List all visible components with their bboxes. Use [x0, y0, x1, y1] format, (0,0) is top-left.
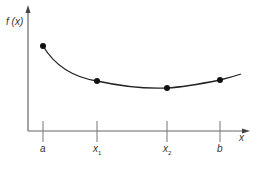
x-axis-label: x — [239, 132, 244, 143]
curve — [43, 46, 241, 88]
point-a — [40, 43, 46, 49]
tick-label-a: a — [40, 143, 46, 154]
tick-label-x2-sub: 2 — [168, 150, 171, 156]
tick-label-x1: x1 — [93, 143, 101, 154]
tick-label-x2: x2 — [163, 143, 171, 154]
y-axis-arrow-icon — [26, 5, 31, 13]
point-x1 — [94, 78, 100, 84]
tick-label-x1-sub: 1 — [98, 150, 101, 156]
tick-label-b: b — [217, 143, 223, 154]
point-x2 — [164, 85, 170, 91]
point-b — [217, 77, 223, 83]
y-axis-label: f (x) — [6, 16, 23, 27]
